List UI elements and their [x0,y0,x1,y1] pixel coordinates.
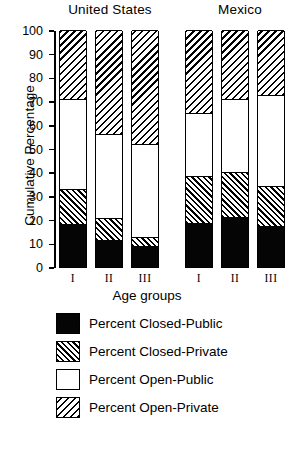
bar-segment-percent-closed-private [258,186,284,225]
y-tick-mark: 50 [49,149,54,151]
y-tick-mark: 10 [49,244,54,246]
y-tick-label: 100 [22,25,43,38]
bar-segment-percent-open-public [96,134,122,218]
y-tick-label: 10 [29,238,43,251]
bar-segment-percent-open-public [132,144,158,238]
white-swatch [56,369,80,390]
bar-united-states-I[interactable] [59,31,87,268]
y-tick-label: 70 [29,96,43,109]
bar-segment-percent-closed-public [132,246,158,267]
bar-segment-percent-closed-public [60,224,86,267]
y-tick-mark: 0 [49,267,54,269]
y-axis-line [54,31,56,268]
bar-segment-percent-open-public [60,99,86,189]
stacked-bar-chart: United States Mexico Cumulative Percenta… [0,0,294,456]
bar-mexico-I[interactable] [185,31,213,268]
solid-black-swatch [56,313,80,334]
y-tick-label: 60 [29,120,43,133]
bar-segment-percent-closed-private [132,237,158,245]
bar-segment-percent-open-private [186,30,212,113]
bar-segment-percent-closed-private [60,189,86,225]
y-tick-mark: 60 [49,125,54,127]
hatch-backward-swatch [56,397,80,418]
bar-segment-percent-open-private [222,30,248,99]
bar-segment-percent-open-public [258,95,284,186]
bar-segment-percent-closed-private [96,218,122,239]
y-tick-label: 90 [29,48,43,61]
bar-segment-percent-closed-public [222,217,248,267]
legend-item-2[interactable]: Percent Open-Public [56,366,294,393]
y-tick-label: 30 [29,191,43,204]
x-axis-title: Age groups [0,288,294,303]
bar-segment-percent-open-private [258,30,284,95]
x-tick-label-1: II [94,272,124,284]
bar-segment-percent-closed-private [186,176,212,223]
y-tick-mark: 80 [49,78,54,80]
y-tick-label: 0 [36,262,43,275]
y-tick-mark: 30 [49,196,54,198]
bar-segment-percent-closed-public [258,226,284,267]
bar-segment-percent-open-public [222,99,248,172]
legend-item-3[interactable]: Percent Open-Private [56,394,294,421]
y-tick-mark: 90 [49,54,54,56]
bar-segment-percent-open-private [60,30,86,99]
bar-united-states-II[interactable] [95,31,123,268]
y-tick-label: 40 [29,167,43,180]
legend-item-0[interactable]: Percent Closed-Public [56,310,294,337]
y-tick-mark: 100 [49,30,54,32]
y-tick-mark: 20 [49,220,54,222]
legend-label: Percent Closed-Private [89,344,228,359]
x-tick-label-5: III [256,272,286,284]
group-title-mexico: Mexico [186,2,294,17]
x-tick-label-2: III [130,272,160,284]
legend-item-1[interactable]: Percent Closed-Private [56,338,294,365]
bar-mexico-II[interactable] [221,31,249,268]
bar-united-states-III[interactable] [131,31,159,268]
y-tick-label: 80 [29,72,43,85]
bar-segment-percent-closed-private [222,172,248,217]
group-title-united-states: United States [46,2,174,17]
x-tick-label-0: I [58,272,88,284]
bar-segment-percent-open-public [186,113,212,176]
hatch-forward-swatch [56,341,80,362]
plot-area: 0102030405060708090100 [54,31,294,268]
y-tick-label: 50 [29,143,43,156]
y-tick-mark: 40 [49,172,54,174]
x-tick-label-3: I [184,272,214,284]
bar-mexico-III[interactable] [257,31,285,268]
legend-label: Percent Closed-Public [89,316,223,331]
legend-label: Percent Open-Public [89,372,214,387]
legend-label: Percent Open-Private [89,400,219,415]
bar-segment-percent-open-private [132,30,158,144]
chart-legend: Percent Closed-PublicPercent Closed-Priv… [56,310,294,422]
bar-segment-percent-closed-public [186,223,212,267]
bar-segment-percent-open-private [96,30,122,134]
y-tick-mark: 70 [49,101,54,103]
x-tick-label-4: II [220,272,250,284]
bar-segment-percent-closed-public [96,240,122,267]
y-tick-label: 20 [29,214,43,227]
